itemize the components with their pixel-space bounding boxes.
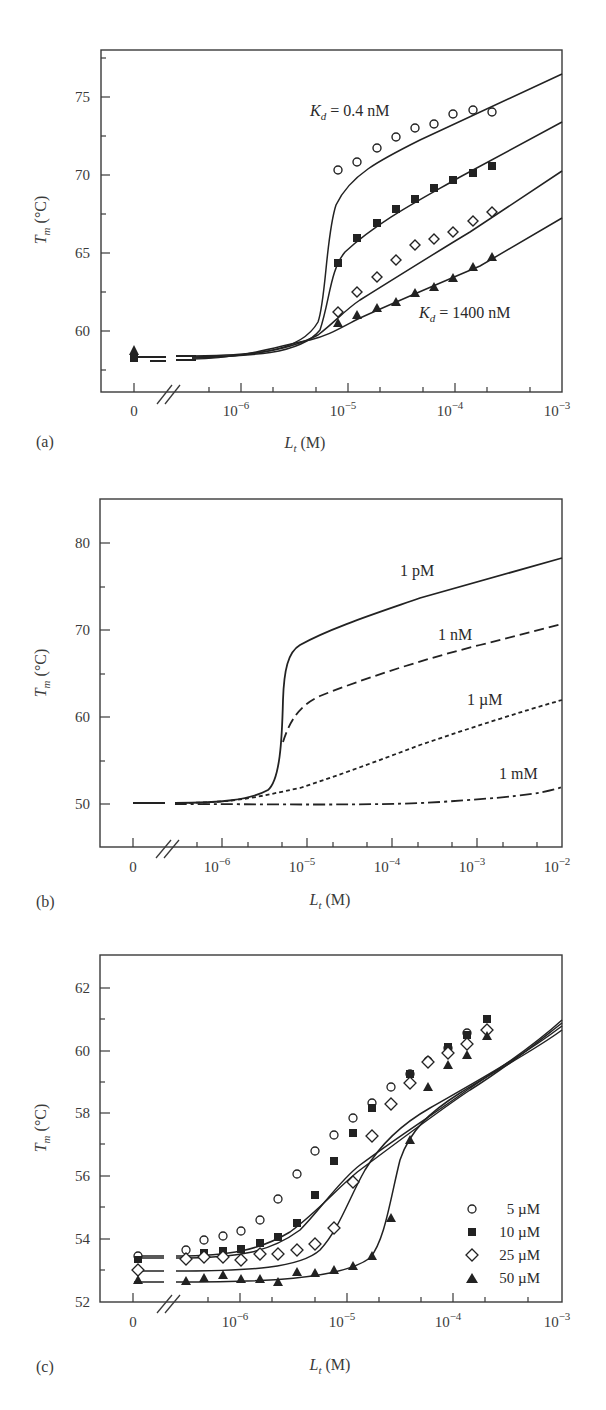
svg-text:1 nM: 1 nM <box>438 626 472 643</box>
svg-text:10−2: 10−2 <box>544 855 571 875</box>
y-tick-labels: 75 70 65 60 <box>75 89 90 339</box>
annotation-kd-low: Kd = 0.4 nM <box>309 102 389 122</box>
svg-text:10−4: 10−4 <box>437 399 464 419</box>
svg-text:65: 65 <box>75 245 90 261</box>
y-tick-labels: 80 70 60 50 <box>75 535 90 812</box>
fit-curves <box>134 1020 562 1282</box>
panel-label: (a) <box>36 433 54 451</box>
svg-text:52: 52 <box>75 1294 90 1310</box>
circle-open-icon <box>468 1205 476 1213</box>
svg-text:60: 60 <box>75 709 90 725</box>
svg-text:75: 75 <box>75 89 90 105</box>
curve-1mM <box>175 787 562 805</box>
svg-text:62: 62 <box>75 980 90 996</box>
y-axis-ticks <box>100 543 110 804</box>
svg-text:1 mM: 1 mM <box>499 765 538 782</box>
x-axis-label: Lt (M) <box>284 434 326 454</box>
svg-text:70: 70 <box>75 167 90 183</box>
svg-text:56: 56 <box>75 1168 91 1184</box>
legend-item: 5 µM <box>468 1201 540 1217</box>
svg-text:10−6: 10−6 <box>222 1310 249 1330</box>
curve-1pM <box>133 558 562 803</box>
series-squares <box>134 1015 491 1263</box>
svg-text:0: 0 <box>129 859 137 875</box>
svg-text:1 µM: 1 µM <box>467 691 502 709</box>
svg-text:10−5: 10−5 <box>289 855 316 875</box>
plot-frame <box>100 499 562 847</box>
svg-text:10−5: 10−5 <box>330 399 357 419</box>
svg-text:10−6: 10−6 <box>204 855 231 875</box>
series-circles <box>134 1026 491 1260</box>
curves <box>133 558 562 805</box>
x-axis-ticks <box>133 1293 528 1302</box>
legend-item: 50 µM <box>466 1270 540 1286</box>
legend-item: 10 µM <box>468 1224 540 1240</box>
svg-text:54: 54 <box>75 1231 91 1247</box>
square-filled-icon <box>468 1228 476 1236</box>
svg-text:10−3: 10−3 <box>459 855 486 875</box>
panel-c: 62 60 58 56 54 52 0 10−6 10−5 10−4 10−3 … <box>32 955 571 1376</box>
diamond-open-icon <box>466 1249 478 1261</box>
svg-text:0: 0 <box>129 1314 137 1330</box>
x-tick-labels: 0 10−6 10−5 10−4 10−3 <box>130 399 571 419</box>
svg-text:25 µM: 25 µM <box>499 1247 540 1263</box>
svg-text:50: 50 <box>75 796 90 812</box>
svg-text:10 µM: 10 µM <box>499 1224 540 1240</box>
legend-item: 25 µM <box>466 1247 540 1263</box>
panel-b: 80 70 60 50 0 10−6 10−5 10−4 10−3 10−2 L… <box>32 499 570 911</box>
curve-1nM <box>283 624 562 742</box>
x-axis-label: Lt (M) <box>309 1356 351 1376</box>
y-axis-label: Tm (°C) <box>32 1104 52 1153</box>
curve-1uM <box>175 700 562 803</box>
panel-a: 75 70 65 60 0 10−6 10−5 10−4 10−3 Lt (M)… <box>32 50 571 454</box>
y-axis-ticks <box>101 58 110 370</box>
svg-text:60: 60 <box>75 1043 90 1059</box>
plot-frame <box>100 955 562 1302</box>
svg-text:1 pM: 1 pM <box>400 562 434 580</box>
figure: 75 70 65 60 0 10−6 10−5 10−4 10−3 Lt (M)… <box>0 0 606 1410</box>
svg-text:58: 58 <box>75 1105 90 1121</box>
series-squares <box>130 162 496 362</box>
axis-break-icon <box>156 840 179 858</box>
annotation-kd-high: Kd = 1400 nM <box>418 304 510 324</box>
fit-stubs-at-zero <box>134 356 196 361</box>
x-axis-label: Lt (M) <box>309 891 351 911</box>
svg-text:10−3: 10−3 <box>544 1310 571 1330</box>
y-axis-ticks <box>100 988 110 1270</box>
legend: 5 µM 10 µM 25 µM 50 µM <box>466 1201 540 1286</box>
svg-text:5 µM: 5 µM <box>507 1201 540 1217</box>
x-tick-labels: 0 10−6 10−5 10−4 10−3 10−2 <box>129 855 570 875</box>
triangle-filled-icon <box>466 1273 478 1283</box>
y-axis-label: Tm (°C) <box>32 196 52 245</box>
svg-text:10−4: 10−4 <box>374 855 401 875</box>
panel-label: (b) <box>36 893 55 911</box>
svg-text:10−3: 10−3 <box>544 399 571 419</box>
svg-text:10−4: 10−4 <box>435 1310 462 1330</box>
curve-labels: 1 pM 1 nM 1 µM 1 mM <box>400 562 538 782</box>
svg-text:60: 60 <box>75 323 90 339</box>
x-axis-ticks <box>134 383 530 392</box>
y-axis-label: Tm (°C) <box>32 649 52 698</box>
x-axis-ticks <box>133 838 537 847</box>
y-tick-labels: 62 60 58 56 54 52 <box>75 980 91 1310</box>
series-diamonds <box>333 207 497 317</box>
svg-text:50 µM: 50 µM <box>499 1270 540 1286</box>
svg-text:10−6: 10−6 <box>223 399 250 419</box>
svg-text:70: 70 <box>75 622 90 638</box>
axis-break-icon <box>157 385 180 404</box>
panel-label: (c) <box>36 1358 54 1376</box>
x-tick-labels: 0 10−6 10−5 10−4 10−3 <box>129 1310 571 1330</box>
svg-text:0: 0 <box>130 403 138 419</box>
svg-text:10−5: 10−5 <box>329 1310 356 1330</box>
svg-text:80: 80 <box>75 535 90 551</box>
axis-break-icon <box>157 1295 180 1313</box>
